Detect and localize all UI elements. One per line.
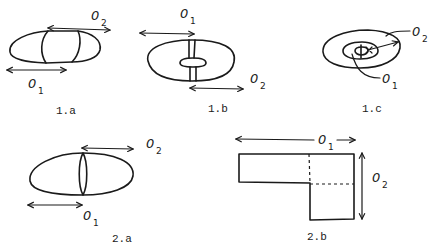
caption-1a: 1.a bbox=[56, 105, 76, 117]
cut-line-2 bbox=[194, 40, 195, 58]
figure-1a: 0 2 0 1 1.a bbox=[7, 8, 110, 117]
ellipse-shape bbox=[10, 31, 100, 63]
label-o2-sub: 2 bbox=[260, 81, 266, 91]
label-o1-sub: 1 bbox=[392, 81, 398, 91]
label-o2: 0 bbox=[412, 24, 420, 39]
arrow-o1 bbox=[140, 33, 194, 34]
figure-2b: 0 1 0 2 2.b bbox=[236, 132, 388, 243]
diagram-canvas: 0 2 0 1 1.a 0 1 0 2 1.b 0 2 0 1 1.c bbox=[0, 0, 435, 248]
l-shape bbox=[239, 154, 354, 220]
cross-section bbox=[79, 153, 87, 195]
label-o2-sub: 2 bbox=[422, 34, 428, 44]
inner-right-curve bbox=[72, 31, 80, 62]
label-o1-sub: 1 bbox=[93, 218, 99, 228]
figure-1b: 0 1 0 2 1.b bbox=[140, 6, 266, 115]
inner-left-curve bbox=[42, 31, 48, 63]
label-o2-sub: 2 bbox=[101, 18, 107, 28]
leader-o2 bbox=[386, 31, 410, 36]
arrow-o2 bbox=[82, 148, 133, 149]
label-o2: 0 bbox=[372, 170, 380, 185]
dashed-vertical bbox=[309, 154, 310, 183]
ellipse-shape bbox=[30, 153, 133, 195]
figure-2a: 0 2 0 1 2.a bbox=[28, 136, 162, 245]
torus-hole bbox=[180, 58, 206, 67]
arrow-o2 bbox=[48, 28, 110, 30]
label-o1-sub: 1 bbox=[328, 142, 334, 152]
label-o1: 0 bbox=[318, 132, 326, 147]
label-o2-sub: 2 bbox=[156, 146, 162, 156]
label-o1-sub: 1 bbox=[190, 16, 196, 26]
label-o1-sub: 1 bbox=[38, 86, 44, 96]
label-o1: 0 bbox=[28, 76, 36, 91]
torus-outer bbox=[148, 40, 235, 81]
arrow-o1-left bbox=[236, 139, 314, 140]
label-o1: 0 bbox=[382, 71, 390, 86]
label-o2-sub: 2 bbox=[382, 180, 388, 190]
label-o2: 0 bbox=[91, 8, 99, 23]
caption-1b: 1.b bbox=[208, 103, 228, 115]
arrow-o2 bbox=[190, 88, 243, 89]
label-o1: 0 bbox=[180, 6, 188, 21]
caption-2b: 2.b bbox=[307, 231, 327, 243]
caption-1c: 1.c bbox=[362, 103, 382, 115]
figure-1c: 0 2 0 1 1.c bbox=[323, 24, 428, 115]
label-o2: 0 bbox=[250, 71, 258, 86]
label-o1: 0 bbox=[83, 208, 91, 223]
caption-2a: 2.a bbox=[112, 233, 132, 245]
label-o2: 0 bbox=[146, 136, 154, 151]
